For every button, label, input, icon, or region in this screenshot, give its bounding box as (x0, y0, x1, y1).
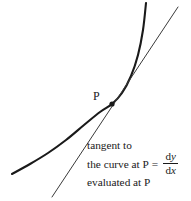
tangent-line-diagram: P tangent to the curve at P = dy dx eval… (0, 0, 191, 201)
caption: tangent to the curve at P = dy dx evalua… (87, 139, 178, 189)
caption-line-2: the curve at P = dy dx (87, 152, 178, 176)
fraction-numerator: dy (164, 151, 176, 162)
caption-line-2-text: the curve at P (87, 158, 149, 171)
derivative-fraction: dy dx (163, 151, 178, 176)
caption-lines: tangent to the curve at P = dy dx evalua… (87, 139, 178, 189)
denominator-variable: x (171, 164, 176, 176)
equals-sign: = (149, 158, 158, 171)
point-of-tangency-marker (109, 101, 114, 106)
fraction-denominator: dx (164, 165, 176, 176)
point-label-p: P (93, 90, 100, 102)
caption-line-3: evaluated at P (87, 176, 178, 189)
numerator-variable: y (171, 150, 176, 162)
